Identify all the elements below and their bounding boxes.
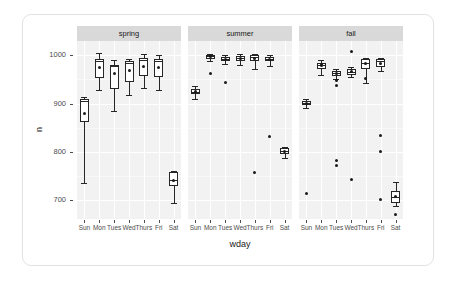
boxplot-mean-point [283,150,286,153]
boxplot-whisker-cap-lower [282,158,288,159]
x-axis-tick-mark [129,220,130,223]
boxplot-summer-Sat [188,41,292,219]
y-axis-title: n [35,120,44,140]
boxplot-whisker-cap-lower [171,203,177,204]
x-axis-tick-mark [99,220,100,223]
boxplot-spring-Sat [77,41,181,219]
boxplot-whisker-upper [396,182,397,191]
x-axis-tick-mark [159,220,160,223]
chart-screenshot: 7008009001000nspringSunMonTuesWedThursFr… [0,0,456,284]
x-axis-tick-label: Sat [382,225,410,232]
x-axis-tick-mark [321,220,322,223]
x-axis-tick-mark [336,220,337,223]
panel-spring [77,41,181,219]
y-axis-tick-mark [70,104,73,105]
panel-summer [188,41,292,219]
y-axis-tick-label: 900 [28,100,66,108]
facet-strip-fall: fall [299,26,403,41]
boxplot-whisker-cap-upper [393,182,399,183]
faceted-boxplot-chart: 7008009001000nspringSunMonTuesWedThursFr… [0,0,456,284]
boxplot-whisker-lower [174,186,175,202]
y-axis-tick-label: 700 [28,196,66,204]
boxplot-outlier-point [394,213,397,216]
x-axis-tick-mark [114,220,115,223]
boxplot-fall-Sat [299,41,403,219]
x-axis-tick-mark [396,220,397,223]
x-axis-tick-mark [210,220,211,223]
x-axis-title: wday [77,240,403,249]
x-axis-tick-mark [270,220,271,223]
boxplot-mean-point [394,195,397,198]
panel-fall [299,41,403,219]
y-axis-tick-mark [70,152,73,153]
facet-strip-label: spring [77,26,181,41]
x-axis-tick-mark [351,220,352,223]
x-axis-tick-mark [240,220,241,223]
x-axis-tick-mark [174,220,175,223]
x-axis-tick-mark [195,220,196,223]
facet-strip-summer: summer [188,26,292,41]
x-axis-tick-mark [366,220,367,223]
x-axis-tick-mark [285,220,286,223]
x-axis-tick-mark [255,220,256,223]
x-axis-tick-mark [84,220,85,223]
facet-strip-spring: spring [77,26,181,41]
y-axis-tick-mark [70,55,73,56]
facet-strip-label: fall [299,26,403,41]
boxplot-whisker-cap-lower [393,206,399,207]
x-axis-tick-mark [144,220,145,223]
x-axis-tick-mark [381,220,382,223]
y-axis-tick-label: 1000 [28,51,66,59]
y-axis-tick-label: 800 [28,148,66,156]
x-axis-tick-mark [225,220,226,223]
x-axis-tick-mark [306,220,307,223]
facet-strip-label: summer [188,26,292,41]
y-axis-tick-mark [70,200,73,201]
